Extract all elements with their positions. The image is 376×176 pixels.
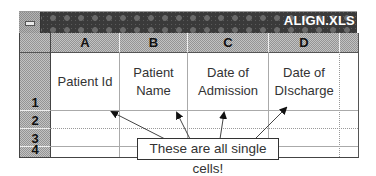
arrow-to-c1	[220, 113, 224, 139]
arrow-to-d1	[255, 108, 286, 139]
arrow-to-a1	[112, 112, 165, 139]
arrow-to-b1	[177, 113, 190, 139]
callout-text-box: These are all single cells!	[137, 138, 279, 160]
